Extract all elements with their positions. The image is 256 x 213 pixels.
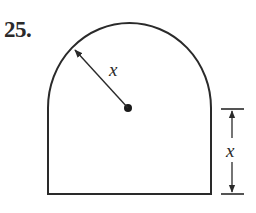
radius-label: x [108,59,118,80]
arch-figure: x x [0,0,256,213]
height-label: x [225,140,235,161]
radius-arrow [75,50,128,108]
